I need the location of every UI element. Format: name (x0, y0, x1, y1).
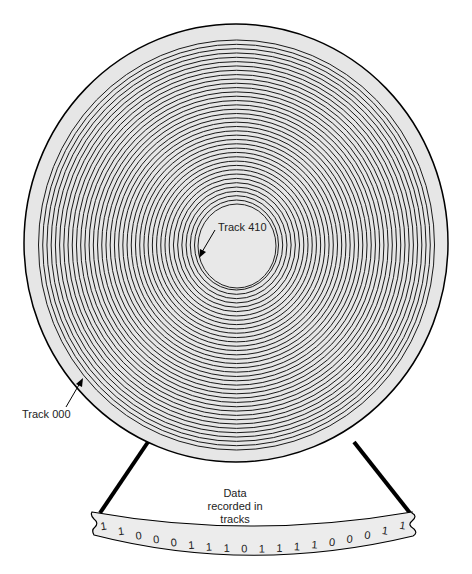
bit: 1 (311, 538, 318, 550)
bit: 1 (223, 542, 229, 554)
track-000-label: Track 000 (22, 408, 71, 421)
caption-line-1: Data (200, 487, 270, 500)
center-hole (198, 204, 276, 288)
caption-line-2: recorded in (200, 500, 270, 513)
bit: 0 (329, 536, 336, 548)
bit: 0 (241, 543, 247, 555)
bit: 0 (346, 532, 353, 545)
bit: 0 (170, 536, 177, 548)
disk (24, 24, 448, 462)
data-caption: Data recorded in tracks (200, 487, 270, 526)
bit: 1 (276, 542, 282, 554)
track-410-label: Track 410 (218, 221, 267, 234)
bit: 1 (206, 541, 213, 553)
bit: 1 (294, 540, 301, 552)
bit: 0 (153, 533, 160, 546)
bit: 1 (259, 542, 265, 554)
caption-line-3: tracks (200, 513, 270, 526)
bit: 1 (188, 539, 195, 551)
